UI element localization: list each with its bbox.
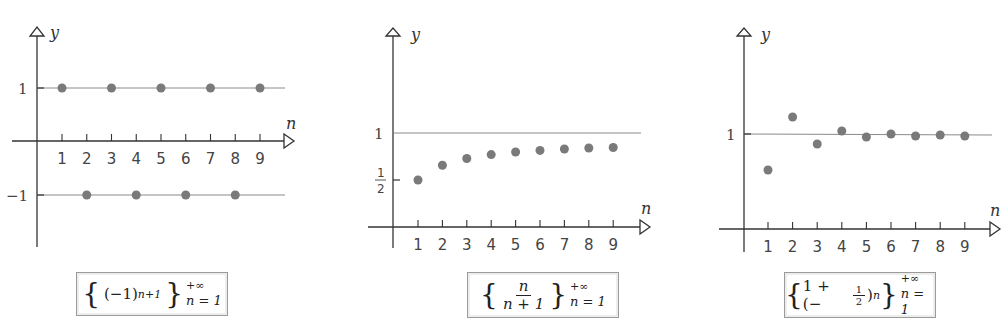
x-ticks	[768, 222, 965, 229]
svg-text:7: 7	[911, 238, 921, 256]
svg-text:5: 5	[511, 236, 521, 254]
svg-text:2: 2	[788, 238, 798, 256]
x-axis-label: n	[286, 114, 296, 133]
formula-limits: +∞ n = 1	[570, 280, 606, 310]
lower-limit: n = 1	[570, 294, 606, 310]
svg-text:6: 6	[181, 150, 191, 168]
y-tick-label-neg1: −1	[6, 187, 28, 205]
y-axis-label: y	[410, 25, 421, 44]
x-axis-arrow-icon	[990, 222, 1000, 236]
x-axis-label: n	[990, 201, 1000, 220]
svg-text:8: 8	[935, 238, 945, 256]
y-axis-arrow-icon	[30, 27, 44, 36]
data-points	[414, 143, 618, 185]
fraction-numerator: 1	[853, 284, 865, 296]
x-ticks	[418, 220, 613, 227]
chart-n-over-n-plus-1: y n 1 1 2 1 2 3 4 5 6 7 8 9	[368, 25, 651, 254]
left-brace: {	[480, 281, 498, 309]
left-brace: {	[785, 281, 803, 309]
x-tick-labels: 1 2 3 4 5 6 7 8 9	[763, 238, 969, 256]
right-brace: }	[165, 280, 183, 308]
x-axis-arrow-icon	[284, 134, 294, 148]
svg-text:1: 1	[57, 150, 67, 168]
svg-text:5: 5	[156, 150, 166, 168]
svg-text:1: 1	[413, 236, 423, 254]
fraction-denominator: 2	[853, 296, 865, 307]
svg-text:4: 4	[837, 238, 847, 256]
svg-text:9: 9	[255, 150, 265, 168]
formula-exponent: n+1	[138, 288, 161, 301]
formula-box-alternating: { (−1)n+1 } +∞ n = 1	[76, 272, 228, 316]
svg-text:4: 4	[131, 150, 141, 168]
svg-text:9: 9	[608, 236, 618, 254]
y-tick-label-1: 1	[726, 126, 736, 144]
formula-box-one-plus-neg-half-pow-n: { 1 + (− 1 2 )n } +∞ n = 1	[784, 272, 936, 318]
svg-text:5: 5	[862, 238, 872, 256]
y-tick-label-1: 1	[18, 80, 28, 98]
formula-prefix: 1 + (−	[803, 277, 851, 313]
svg-text:1: 1	[763, 238, 773, 256]
svg-text:7: 7	[560, 236, 570, 254]
upper-limit: +∞	[186, 279, 222, 293]
upper-limit: +∞	[570, 280, 606, 294]
formula-limits: +∞ n = 1	[901, 272, 935, 318]
chart-one-plus-neg-half-pow-n: y n 1 1 2 3 4 5 6 7 8 9	[719, 25, 1000, 256]
x-tick-labels: 1 2 3 4 5 6 7 8 9	[413, 236, 618, 254]
formula-base: (−1)	[104, 285, 138, 303]
y-tick-label-half-num: 1	[377, 166, 385, 180]
svg-text:3: 3	[107, 150, 117, 168]
y-axis-arrow-icon	[737, 28, 751, 36]
svg-text:3: 3	[812, 238, 822, 256]
fraction-numerator: n	[516, 278, 532, 296]
x-tick-labels: 1 2 3 4 5 6 7 8 9	[57, 150, 265, 168]
y-axis-label: y	[49, 23, 60, 42]
x-ticks	[62, 134, 260, 141]
svg-text:4: 4	[486, 236, 496, 254]
lower-limit: n = 1	[901, 286, 935, 319]
svg-text:2: 2	[438, 236, 448, 254]
y-axis-label: y	[760, 25, 771, 44]
formula-small-fraction: 1 2	[853, 284, 865, 307]
left-brace: {	[82, 280, 100, 308]
y-tick-label-1: 1	[374, 125, 384, 143]
chart-alternating-sequence: y n 1 −1 1 2 3 4 5 6 7 8 9	[6, 23, 296, 247]
formula-exponent: n	[873, 289, 880, 302]
x-axis-arrow-icon	[640, 220, 650, 234]
y-axis-arrow-icon	[386, 28, 400, 36]
svg-text:9: 9	[960, 238, 970, 256]
lower-limit: n = 1	[186, 293, 222, 309]
svg-text:2: 2	[82, 150, 92, 168]
upper-limit: +∞	[901, 272, 935, 286]
x-axis-label: n	[641, 199, 651, 218]
formula-fraction: n n + 1	[500, 278, 547, 312]
svg-text:3: 3	[462, 236, 472, 254]
svg-text:6: 6	[535, 236, 545, 254]
right-brace: }	[549, 281, 567, 309]
formula-limits: +∞ n = 1	[186, 279, 222, 309]
svg-text:6: 6	[886, 238, 896, 256]
svg-text:8: 8	[584, 236, 594, 254]
y-tick-label-half-den: 2	[377, 182, 385, 196]
data-points	[764, 113, 970, 175]
formula-box-n-over-n-plus-1: { n n + 1 } +∞ n = 1	[467, 272, 619, 318]
svg-text:8: 8	[230, 150, 240, 168]
svg-text:7: 7	[206, 150, 216, 168]
fraction-denominator: n + 1	[500, 296, 547, 313]
right-brace: }	[880, 281, 898, 309]
